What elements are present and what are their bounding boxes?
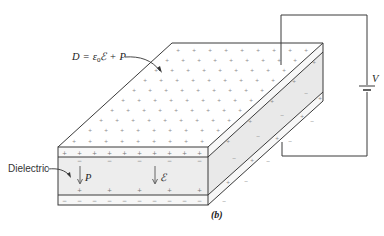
svg-text:+: + xyxy=(184,127,188,133)
svg-text:−: − xyxy=(310,118,314,124)
svg-text:−: − xyxy=(280,112,284,118)
svg-text:+: + xyxy=(176,47,180,53)
svg-text:+: + xyxy=(88,138,92,144)
svg-text:+: + xyxy=(239,77,243,83)
svg-text:+: + xyxy=(148,87,152,93)
svg-text:+: + xyxy=(233,97,237,103)
svg-text:+: + xyxy=(293,57,297,63)
battery-voltage-label: V xyxy=(372,73,380,84)
svg-text:+: + xyxy=(147,117,151,123)
svg-text:+: + xyxy=(266,67,270,73)
svg-text:+: + xyxy=(132,87,136,93)
svg-text:+: + xyxy=(192,47,196,53)
svg-text:+: + xyxy=(159,77,163,83)
svg-text:+: + xyxy=(107,186,112,193)
svg-text:+: + xyxy=(167,149,172,156)
svg-text:+: + xyxy=(115,117,119,123)
svg-text:+: + xyxy=(282,67,286,73)
svg-text:−: − xyxy=(137,157,142,164)
svg-text:+: + xyxy=(126,107,130,113)
svg-text:+: + xyxy=(217,97,221,103)
svg-text:+: + xyxy=(137,186,142,193)
svg-text:+: + xyxy=(164,87,168,93)
svg-text:+: + xyxy=(197,186,202,193)
svg-text:+: + xyxy=(250,157,254,163)
svg-text:+: + xyxy=(107,149,112,156)
svg-text:+: + xyxy=(77,149,82,156)
svg-text:+: + xyxy=(131,117,135,123)
svg-text:+: + xyxy=(179,117,183,123)
svg-text:+: + xyxy=(260,87,264,93)
svg-text:−: − xyxy=(92,197,97,204)
svg-text:+: + xyxy=(207,77,211,83)
dielectric-label: Dielectric xyxy=(8,163,49,174)
svg-text:+: + xyxy=(288,47,292,53)
svg-text:+: + xyxy=(261,57,265,63)
svg-text:+: + xyxy=(208,47,212,53)
svg-text:+: + xyxy=(312,59,316,65)
polarization-label: P xyxy=(84,172,92,183)
svg-text:+: + xyxy=(182,149,187,156)
svg-text:−: − xyxy=(152,197,157,204)
svg-text:−: − xyxy=(122,197,127,204)
svg-text:+: + xyxy=(229,57,233,63)
svg-text:+: + xyxy=(152,127,156,133)
svg-text:−: − xyxy=(107,197,112,204)
svg-text:+: + xyxy=(121,97,125,103)
svg-text:−: − xyxy=(266,158,270,164)
svg-text:+: + xyxy=(184,138,188,144)
svg-text:−: − xyxy=(182,197,187,204)
svg-text:+: + xyxy=(248,118,252,124)
svg-text:−: − xyxy=(232,155,236,161)
svg-text:−: − xyxy=(167,197,172,204)
svg-text:−: − xyxy=(288,138,292,144)
svg-text:+: + xyxy=(77,186,82,193)
svg-text:+: + xyxy=(181,57,185,63)
svg-text:+: + xyxy=(185,97,189,103)
svg-text:+: + xyxy=(200,138,204,144)
svg-text:+: + xyxy=(137,149,142,156)
svg-text:+: + xyxy=(136,127,140,133)
svg-text:+: + xyxy=(206,107,210,113)
svg-text:+: + xyxy=(226,138,230,144)
svg-text:+: + xyxy=(197,149,202,156)
svg-text:+: + xyxy=(304,47,308,53)
svg-text:+: + xyxy=(195,117,199,123)
svg-text:+: + xyxy=(200,127,204,133)
svg-text:+: + xyxy=(158,107,162,113)
svg-text:+: + xyxy=(213,57,217,63)
svg-text:+: + xyxy=(240,47,244,53)
svg-text:+: + xyxy=(218,67,222,73)
svg-text:+: + xyxy=(120,127,124,133)
svg-text:+: + xyxy=(196,87,200,93)
svg-text:+: + xyxy=(272,47,276,53)
svg-text:+: + xyxy=(227,117,231,123)
equation-label: D = ε0ℰ + P xyxy=(71,51,127,64)
svg-text:+: + xyxy=(250,67,254,73)
svg-text:+: + xyxy=(72,138,76,144)
svg-text:−: − xyxy=(256,133,260,139)
svg-text:+: + xyxy=(153,97,157,103)
svg-text:−: − xyxy=(107,157,112,164)
svg-text:+: + xyxy=(92,149,97,156)
svg-text:+: + xyxy=(271,77,275,83)
svg-text:+: + xyxy=(62,149,67,156)
svg-text:+: + xyxy=(165,57,169,63)
svg-text:+: + xyxy=(88,127,92,133)
svg-text:+: + xyxy=(170,67,174,73)
svg-text:+: + xyxy=(270,98,274,104)
svg-text:+: + xyxy=(163,117,167,123)
capacitor-front-face: + + + + + + + + + + − − − − − + + + + + xyxy=(58,147,208,205)
svg-text:+: + xyxy=(99,117,103,123)
svg-text:+: + xyxy=(275,135,279,141)
svg-text:+: + xyxy=(318,95,322,101)
svg-text:−: − xyxy=(62,197,67,204)
svg-text:−: − xyxy=(222,198,226,204)
svg-text:+: + xyxy=(292,78,296,84)
capacitor-diagram: V +++++ −−−− +++++ −−−−− +++++++++ xyxy=(0,0,384,236)
svg-text:+: + xyxy=(256,47,260,53)
svg-text:+: + xyxy=(226,179,230,185)
svg-text:+: + xyxy=(202,67,206,73)
svg-text:+: + xyxy=(212,87,216,93)
svg-text:+: + xyxy=(152,149,157,156)
